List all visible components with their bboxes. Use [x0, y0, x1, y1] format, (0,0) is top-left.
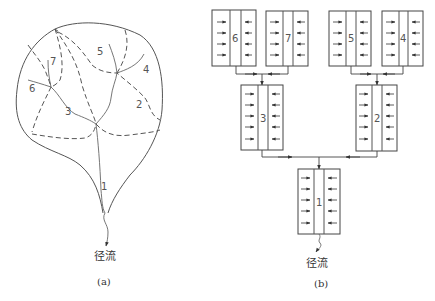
box-2: 2: [356, 85, 397, 151]
subbasin-label: 3: [65, 106, 71, 117]
svg-text:7: 7: [285, 33, 291, 44]
svg-text:6: 6: [232, 33, 238, 44]
panel-caption: (a): [97, 276, 111, 287]
basin-boundary: [16, 23, 162, 213]
connector-5-4-to-2: [351, 66, 403, 85]
divide-5-4: [117, 30, 127, 73]
subbasin-label: 5: [97, 46, 103, 57]
reservoir-schematic: 6 7 5: [212, 10, 423, 289]
subbasin-label: 2: [136, 99, 142, 110]
subbasin-label: 4: [143, 64, 149, 75]
box-5: 5: [329, 11, 371, 66]
svg-text:3: 3: [260, 113, 266, 124]
svg-text:4: 4: [400, 33, 406, 44]
box-1: 1: [298, 169, 340, 234]
panel-caption: (b): [314, 278, 328, 289]
connector-6-7-to-3: [236, 66, 288, 85]
diagram-canvas: 1 2 3 4 5 6 7 径流 (a) 6 7: [0, 0, 435, 301]
tributary-2: [96, 73, 117, 124]
subbasin-label: 1: [101, 181, 107, 192]
box-7: 7: [266, 11, 308, 66]
svg-text:2: 2: [374, 113, 380, 124]
svg-text:1: 1: [316, 197, 322, 208]
box-6: 6: [212, 10, 256, 66]
outlet-label: 径流: [94, 249, 116, 263]
svg-text:5: 5: [348, 33, 354, 44]
divide-2-1: [96, 124, 160, 136]
outlet-label: 径流: [306, 256, 328, 270]
divide-3-1: [32, 124, 96, 139]
outlet-flow: [316, 234, 321, 252]
catchment-map: 1 2 3 4 5 6 7 径流 (a): [16, 23, 162, 287]
tributary-4: [117, 54, 144, 73]
tributary-5: [109, 44, 117, 73]
box-3: 3: [241, 85, 283, 150]
box-4: 4: [382, 11, 423, 66]
connector-3-2-to-1: [262, 150, 377, 169]
subbasin-label: 7: [50, 56, 56, 67]
subbasin-label: 6: [29, 83, 35, 94]
